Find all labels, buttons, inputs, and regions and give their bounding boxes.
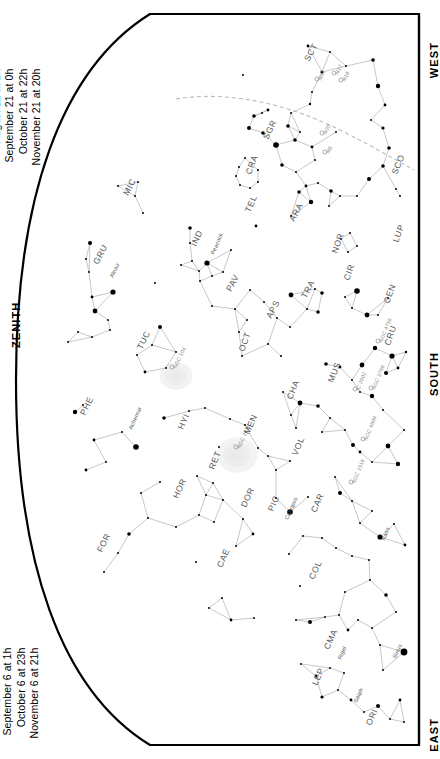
dso-label: NGC 3766 [370,364,385,390]
star [299,131,301,133]
constellation-line [181,261,192,265]
cardinal-label-zenith: ZENITH [10,302,22,348]
star [359,522,361,524]
constellation-line [86,462,106,470]
star [396,462,400,466]
star [165,367,167,369]
star [205,494,207,496]
star [379,644,381,646]
star [360,363,365,368]
star [377,314,379,316]
constellation-line [197,476,206,495]
star [213,521,215,523]
constellation-line [296,172,306,186]
constellation-line [104,553,118,572]
constellation-line [276,461,290,470]
star [134,195,136,197]
star-label-alnair: Alnair [109,262,121,279]
constellation-lines [68,46,406,722]
star [229,418,231,420]
constellation-line [336,548,352,556]
star [117,185,119,187]
star [257,447,259,449]
star [371,510,373,512]
star [275,469,277,471]
constellation-line [372,446,388,462]
star [257,169,259,171]
star [356,245,358,247]
constellation-line [370,580,386,595]
star [267,109,270,112]
star [387,146,391,150]
constellation-line [380,645,383,670]
constellation-line [310,92,312,104]
star [351,500,353,502]
star [121,431,123,433]
constellation-label-aps: APS [264,298,282,319]
constellation-line [388,446,398,464]
constellation-line [95,292,113,311]
constellation-line [340,493,352,501]
star [349,232,351,234]
constellation-line [360,523,380,537]
constellation-line [268,456,290,461]
constellation-line [398,352,406,368]
constellation-line [362,348,375,365]
constellation-line [137,355,145,372]
constellation-line [345,430,353,445]
constellation-label-vol: VOL [290,435,307,456]
date-row: November 6 at 21h [27,648,40,739]
star [324,616,326,618]
star [222,271,224,273]
star-label-naos: Naos [380,526,390,541]
constellation-line [386,356,392,373]
star [88,241,92,245]
constellation-line [222,598,231,620]
constellation-line [282,165,296,172]
star [280,163,284,167]
star [376,84,380,88]
star [297,190,301,194]
constellation-line [230,419,245,425]
constellation-label-for: FOR [95,532,113,554]
date-block-top: July 21 at 4hAugust 21 at 2hSeptember 21… [0,69,43,166]
constellation-label-cir: CIR [341,263,356,282]
constellation-line [318,183,331,191]
constellation-line [235,290,250,309]
constellation-line [289,536,303,554]
constellation-label-dor: DOR [239,486,257,509]
star [329,51,331,53]
constellation-line [312,147,315,160]
cardinal-label-south: SOUTH [428,352,440,396]
constellation-line [176,515,199,527]
constellation-line [325,615,339,617]
constellation-line [339,592,345,615]
star [91,336,93,338]
constellation-line [86,259,89,272]
star [280,355,282,357]
constellation-line [345,297,352,308]
star [288,553,290,555]
deep-sky-objects-layer: M17M18M20M8M47NGC 104NGC 2070NGC 4755NGC… [170,63,393,484]
constellation-line [209,598,222,608]
star [158,325,162,329]
cardinal-label-west: WEST [428,42,440,78]
constellation-line [296,620,310,622]
star [267,343,269,345]
star [351,379,353,381]
constellation-line [236,167,239,176]
star [314,288,316,290]
constellation-line [339,615,348,630]
deep-sky-object: M47 [315,69,327,81]
star [329,667,331,669]
star [199,280,201,282]
constellation-label-ara: ARA [287,201,305,223]
constellation-line [295,140,312,147]
constellation-line [231,618,254,620]
constellation-line [383,148,389,166]
star [329,189,333,193]
star [317,182,319,184]
constellation-line [200,276,212,281]
star [109,329,111,331]
